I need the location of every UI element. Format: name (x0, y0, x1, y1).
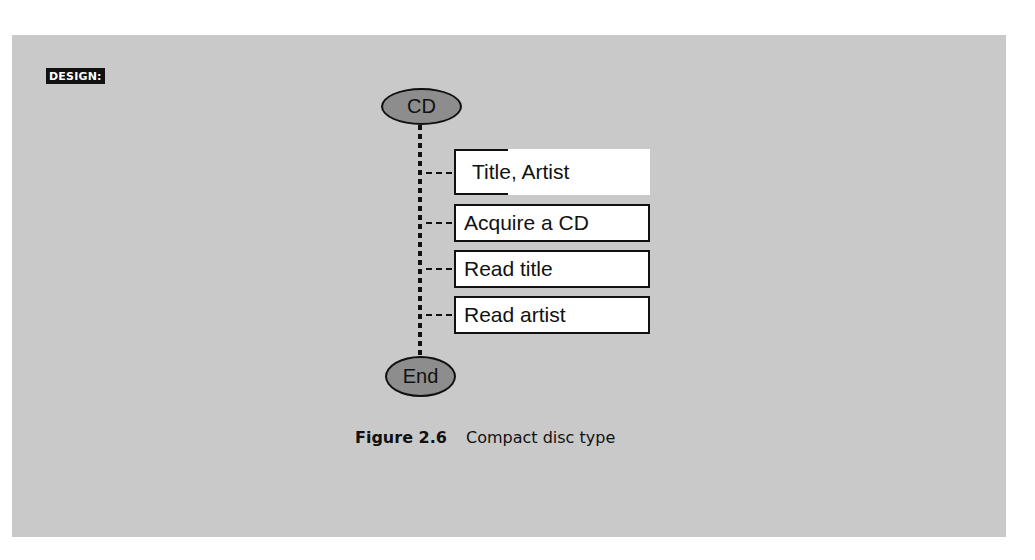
step-box-1: Acquire a CD (454, 204, 650, 242)
figure-caption: Figure 2.6 Compact disc type (355, 428, 615, 447)
header-bracket (454, 149, 508, 195)
end-node-ellipse: End (385, 356, 456, 397)
start-node-label: CD (407, 95, 436, 118)
section-tag-design: DESIGN: (46, 68, 105, 84)
sequence-spine-dotted-line (418, 125, 422, 356)
step-label: Acquire a CD (464, 211, 589, 235)
connector-header (422, 172, 454, 174)
header-box: Title, Artist (454, 149, 650, 195)
step-label: Read artist (464, 303, 566, 327)
connector-step-2 (422, 268, 454, 270)
step-box-3: Read artist (454, 296, 650, 334)
start-node-ellipse: CD (381, 88, 462, 125)
step-box-2: Read title (454, 250, 650, 288)
step-label: Read title (464, 257, 553, 281)
end-node-label: End (403, 365, 439, 388)
connector-step-3 (422, 314, 454, 316)
figure-number: Figure 2.6 (355, 428, 447, 447)
figure-title: Compact disc type (466, 428, 615, 447)
connector-step-1 (422, 222, 454, 224)
